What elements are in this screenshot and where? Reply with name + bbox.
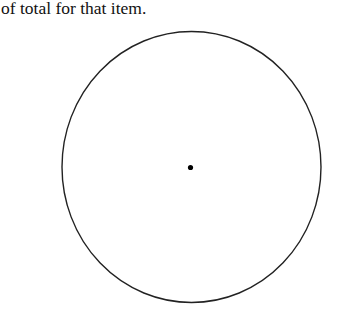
blank-circle-diagram — [0, 0, 338, 316]
center-dot — [188, 165, 193, 170]
